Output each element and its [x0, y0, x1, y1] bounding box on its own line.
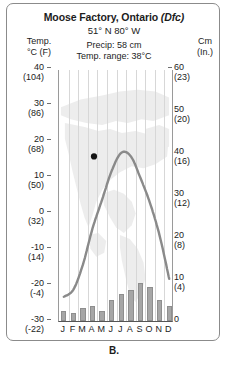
axis-tick-primary: 60 [174, 62, 184, 72]
axis-tick-label: 10(50) [7, 170, 44, 190]
axis-tick-secondary: (12) [174, 198, 218, 208]
title-koppen-code: (Dfc) [161, 11, 184, 23]
axis-tick [47, 247, 51, 248]
right-axis-caption: Cm (In.) [183, 36, 220, 58]
axis-tick-label: 0 [174, 314, 218, 324]
axis-tick-label: 10(4) [174, 272, 218, 292]
axis-tick [47, 283, 51, 284]
axis-tick-secondary: (68) [7, 144, 44, 154]
axis-tick-label: 50(20) [174, 104, 218, 124]
axis-tick [47, 67, 51, 68]
left-axis-caption: Temp. °C (F) [17, 36, 61, 58]
axis-tick-secondary: (86) [7, 108, 44, 118]
axis-tick [47, 139, 51, 140]
axis-tick-primary: 40 [174, 146, 184, 156]
chart-frame: Moose Factory, Ontario (Dfc) 51° N 80° W… [6, 3, 220, 341]
axis-tick-primary: 10 [174, 272, 184, 282]
temperature-line [64, 152, 169, 297]
axis-tick-secondary: (-22) [7, 324, 44, 334]
temperature-marker-dot [91, 153, 97, 159]
axis-tick-primary: 20 [174, 230, 184, 240]
axis-tick-primary: 0 [39, 206, 44, 216]
axis-tick-primary: 0 [174, 314, 179, 324]
month-axis-labels: JFMAMJJASOND [58, 324, 173, 338]
axis-tick-secondary: (8) [174, 240, 218, 250]
coordinates-label: 51° N 80° W [7, 25, 220, 36]
axis-tick-secondary: (50) [7, 180, 44, 190]
axis-tick-label: 20(8) [174, 230, 218, 250]
left-axis-caption-line2: °C (F) [17, 47, 61, 58]
axis-tick-label: 30(12) [174, 188, 218, 208]
axis-tick-label: 30(86) [7, 98, 44, 118]
axis-tick-label: -10(14) [7, 242, 44, 262]
right-axis-caption-line1: Cm [183, 36, 220, 47]
axis-tick-label: -30(-22) [7, 314, 44, 334]
axis-tick-secondary: (4) [174, 282, 218, 292]
axis-tick-primary: 30 [34, 98, 44, 108]
axis-tick-primary: -10 [31, 242, 44, 252]
axis-tick-secondary: (32) [7, 216, 44, 226]
axis-tick-secondary: (20) [174, 114, 218, 124]
axis-tick-secondary: (104) [7, 72, 44, 82]
axis-tick-secondary: (14) [7, 252, 44, 262]
axis-tick [47, 175, 51, 176]
climograph-figure: Moose Factory, Ontario (Dfc) 51° N 80° W… [0, 0, 228, 366]
axis-tick-primary: -20 [31, 278, 44, 288]
axis-tick-primary: 40 [34, 62, 44, 72]
left-axis-caption-line1: Temp. [17, 36, 61, 47]
axis-tick-label: 20(68) [7, 134, 44, 154]
figure-caption: B. [0, 345, 228, 356]
temperature-curve [59, 70, 173, 322]
axis-tick-primary: 10 [34, 170, 44, 180]
axis-tick-secondary: (16) [174, 156, 218, 166]
axis-tick-primary: 30 [174, 188, 184, 198]
month-label: D [162, 324, 174, 334]
axis-tick-label: -20(-4) [7, 278, 44, 298]
axis-tick-secondary: (-4) [7, 288, 44, 298]
axis-tick [47, 211, 51, 212]
axis-tick-primary: -30 [31, 314, 44, 324]
axis-tick-primary: 20 [34, 134, 44, 144]
axis-tick-secondary: (23) [174, 72, 218, 82]
plot-area [58, 70, 173, 322]
chart-title: Moose Factory, Ontario (Dfc) [7, 11, 220, 23]
right-axis-caption-line2: (In.) [183, 47, 220, 58]
axis-tick [168, 67, 172, 68]
axis-tick-label: 0(32) [7, 206, 44, 226]
axis-tick-label: 60(23) [174, 62, 218, 82]
title-city: Moose Factory, Ontario [44, 11, 158, 23]
axis-tick-label: 40(104) [7, 62, 44, 82]
axis-tick-label: 40(16) [174, 146, 218, 166]
axis-tick [47, 319, 51, 320]
axis-tick [47, 103, 51, 104]
axis-tick-primary: 50 [174, 104, 184, 114]
